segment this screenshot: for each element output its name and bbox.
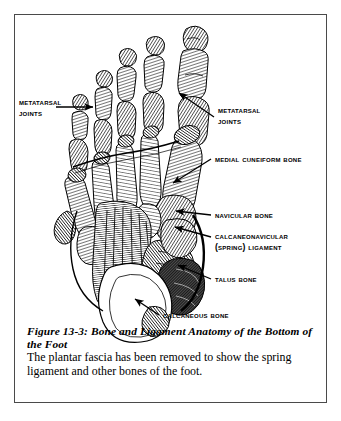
- label-navicular-line1: Navicular Bone: [215, 210, 273, 221]
- label-metatarsal-joints-right-line2: Joints: [218, 116, 261, 127]
- label-spring-ligament-line1: Calcaneonavicular: [215, 231, 288, 242]
- figure-frame: Metatarsal Joints Metatarsal Joints Medi…: [14, 14, 327, 403]
- label-spring-ligament: Calcaneonavicular (Spring) Ligament: [215, 231, 288, 252]
- label-metatarsal-joints-left: Metatarsal Joints: [19, 97, 62, 118]
- label-calcaneous-bone: Calcaneous Bone: [163, 310, 229, 321]
- fifth-toe: [69, 95, 88, 174]
- label-metatarsal-joints-left-line1: Metatarsal: [19, 97, 62, 108]
- label-metatarsal-joints-right-line1: Metatarsal: [218, 105, 261, 116]
- label-calcaneous-line1: Calcaneous Bone: [163, 310, 229, 321]
- fourth-toe: [94, 71, 113, 156]
- label-metatarsal-joints-right: Metatarsal Joints: [218, 105, 261, 126]
- label-navicular-bone: Navicular Bone: [215, 210, 273, 221]
- foot-anatomy-illustration: [15, 15, 326, 320]
- label-metatarsal-joints-left-line2: Joints: [19, 108, 62, 119]
- navicular-bone: [161, 219, 197, 258]
- label-medial-cuneiform-line1: Medial Cuneiform Bone: [215, 154, 302, 165]
- figure-caption-title: Figure 13-3: Bone and Ligament Anatomy o…: [27, 325, 317, 350]
- third-toe: [117, 49, 137, 140]
- figure-caption-block: Figure 13-3: Bone and Ligament Anatomy o…: [27, 325, 317, 378]
- label-spring-ligament-line2: (Spring) Ligament: [215, 242, 288, 253]
- label-talus-line1: Talus Bone: [215, 274, 257, 285]
- second-metatarsal: [140, 134, 161, 208]
- label-medial-cuneiform-bone: Medial Cuneiform Bone: [215, 154, 302, 165]
- label-talus-bone: Talus Bone: [215, 274, 257, 285]
- figure-caption-body: The plantar fascia has been removed to s…: [27, 351, 317, 378]
- foot-skeleton-drawing: [54, 26, 214, 342]
- second-toe: [143, 37, 165, 134]
